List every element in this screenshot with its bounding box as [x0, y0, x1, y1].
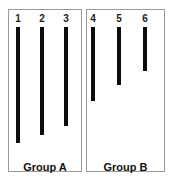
bar-label-5: 5	[112, 14, 126, 24]
bar-stick-1	[16, 27, 20, 143]
bar-label-3: 3	[59, 14, 73, 24]
bar-stick-3	[64, 27, 68, 126]
diagram-canvas: Group A Group B 123456	[0, 0, 173, 180]
bar-stick-5	[117, 27, 121, 85]
bar-stick-2	[40, 27, 44, 135]
bar-label-1: 1	[11, 14, 25, 24]
bar-stick-4	[91, 27, 95, 101]
bar-label-4: 4	[86, 14, 100, 24]
bars-layer: 123456	[0, 0, 173, 180]
bar-stick-6	[143, 27, 147, 71]
bar-label-6: 6	[138, 14, 152, 24]
bar-label-2: 2	[35, 14, 49, 24]
